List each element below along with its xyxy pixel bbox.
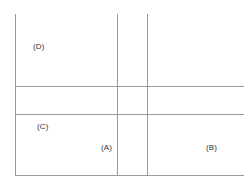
region-label-d: (D): [33, 42, 44, 52]
region-label-a: (A): [101, 143, 112, 153]
vertical-line-middle-first: [117, 14, 118, 176]
region-label-b: (B): [206, 143, 217, 153]
region-label-c: (C): [37, 122, 48, 132]
horizontal-line-upper: [15, 86, 244, 87]
vertical-line-left: [15, 14, 16, 176]
horizontal-line-middle: [15, 114, 244, 115]
vertical-line-middle-second: [147, 14, 148, 176]
diagram-canvas: (D) (C) (A) (B): [0, 0, 250, 186]
horizontal-line-bottom: [15, 175, 244, 176]
